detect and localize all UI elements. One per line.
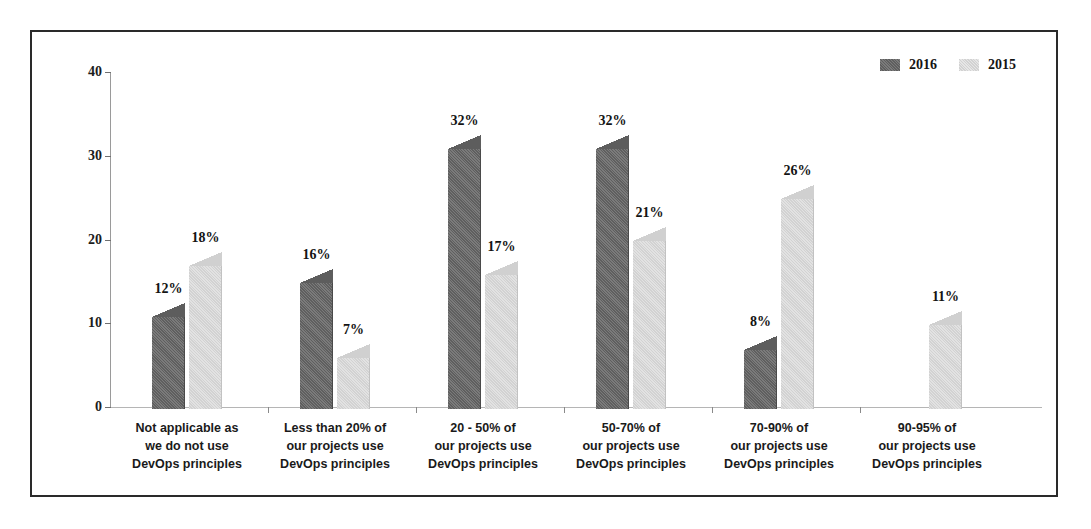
bar-body: [633, 241, 666, 409]
bar-top-bevel: [189, 252, 222, 266]
bar-value-label: 7%: [343, 322, 364, 338]
bar-value-label: 17%: [488, 239, 516, 255]
x-tick-mark: [860, 407, 861, 413]
x-tick-mark: [268, 407, 269, 413]
y-tick-mark: [105, 72, 111, 73]
bar-body: [189, 266, 222, 409]
bar-group-6: 11%: [892, 72, 962, 409]
bar-2016-2[interactable]: 16%: [300, 275, 333, 409]
y-tick-label: 0: [95, 399, 102, 415]
bar-top-bevel: [929, 311, 962, 325]
y-tick-label: 30: [88, 148, 102, 164]
bar-value-label: 16%: [303, 247, 331, 263]
y-tick-mark: [105, 407, 111, 408]
bar-top-bevel: [633, 227, 666, 241]
bar-top-bevel: [781, 185, 814, 199]
category-label-line: we do not use: [107, 438, 267, 456]
x-tick-mark: [712, 407, 713, 413]
bar-group-4: 32%21%: [596, 72, 666, 409]
bar-top-bevel: [152, 303, 185, 317]
y-tick-mark: [105, 240, 111, 241]
bar-body: [596, 149, 629, 409]
category-label-line: 70-90% of: [699, 420, 859, 438]
category-label-3: 20 - 50% ofour projects useDevOps princi…: [403, 420, 563, 473]
bar-body: [485, 275, 518, 409]
bar-body: [152, 317, 185, 410]
bar-2015-1[interactable]: 18%: [189, 258, 222, 409]
bar-value-label: 11%: [932, 289, 959, 305]
category-label-5: 70-90% ofour projects useDevOps principl…: [699, 420, 859, 473]
category-label-line: DevOps principles: [107, 456, 267, 474]
category-label-line: DevOps principles: [699, 456, 859, 474]
bar-top-bevel: [337, 344, 370, 358]
bar-group-2: 16%7%: [300, 72, 370, 409]
category-label-6: 90-95% ofour projects useDevOps principl…: [847, 420, 1007, 473]
bar-value-label: 8%: [750, 314, 771, 330]
bar-body: [744, 350, 777, 409]
category-label-line: Not applicable as: [107, 420, 267, 438]
bar-top-bevel: [596, 135, 629, 149]
bar-top-bevel: [485, 261, 518, 275]
bar-value-label: 18%: [192, 230, 220, 246]
category-label-line: DevOps principles: [847, 456, 1007, 474]
bar-2015-3[interactable]: 17%: [485, 267, 518, 409]
bar-group-3: 32%17%: [448, 72, 518, 409]
chart-frame: 2016 2015 010203040 12%18%16%7%32%17%32%…: [30, 30, 1058, 497]
category-label-line: DevOps principles: [255, 456, 415, 474]
category-label-line: our projects use: [847, 438, 1007, 456]
bar-2015-4[interactable]: 21%: [633, 233, 666, 409]
bar-2016-3[interactable]: 32%: [448, 141, 481, 409]
x-tick-mark: [564, 407, 565, 413]
category-label-4: 50-70% ofour projects useDevOps principl…: [551, 420, 711, 473]
category-label-line: our projects use: [255, 438, 415, 456]
bar-body: [337, 358, 370, 409]
bar-body: [781, 199, 814, 409]
bar-body: [300, 283, 333, 409]
bar-top-bevel: [300, 269, 333, 283]
bar-2015-6[interactable]: 11%: [929, 317, 962, 409]
category-label-line: our projects use: [699, 438, 859, 456]
bar-body: [929, 325, 962, 409]
bar-value-label: 12%: [155, 281, 183, 297]
category-label-line: DevOps principles: [551, 456, 711, 474]
category-label-line: DevOps principles: [403, 456, 563, 474]
y-tick-label: 20: [88, 232, 102, 248]
category-label-line: Less than 20% of: [255, 420, 415, 438]
bar-2015-5[interactable]: 26%: [781, 191, 814, 409]
category-label-line: 20 - 50% of: [403, 420, 563, 438]
bar-group-1: 12%18%: [152, 72, 222, 409]
bar-2016-1[interactable]: 12%: [152, 309, 185, 410]
bar-value-label: 21%: [636, 205, 664, 221]
bar-value-label: 32%: [451, 113, 479, 129]
y-tick-label: 40: [88, 64, 102, 80]
category-label-1: Not applicable aswe do not useDevOps pri…: [107, 420, 267, 473]
category-label-2: Less than 20% ofour projects useDevOps p…: [255, 420, 415, 473]
bar-group-5: 8%26%: [744, 72, 814, 409]
bar-2015-2[interactable]: 7%: [337, 350, 370, 409]
bar-value-label: 32%: [599, 113, 627, 129]
plot-area: 010203040 12%18%16%7%32%17%32%21%8%26%11…: [110, 70, 1042, 409]
category-label-line: our projects use: [403, 438, 563, 456]
category-label-line: 90-95% of: [847, 420, 1007, 438]
bar-value-label: 26%: [784, 163, 812, 179]
bar-top-bevel: [448, 135, 481, 149]
x-tick-mark: [416, 407, 417, 413]
y-tick-label: 10: [88, 315, 102, 331]
bar-2016-5[interactable]: 8%: [744, 342, 777, 409]
y-tick-mark: [105, 323, 111, 324]
category-label-line: our projects use: [551, 438, 711, 456]
bar-body: [448, 149, 481, 409]
category-label-line: 50-70% of: [551, 420, 711, 438]
bar-2016-4[interactable]: 32%: [596, 141, 629, 409]
bar-top-bevel: [744, 336, 777, 350]
y-tick-mark: [105, 156, 111, 157]
